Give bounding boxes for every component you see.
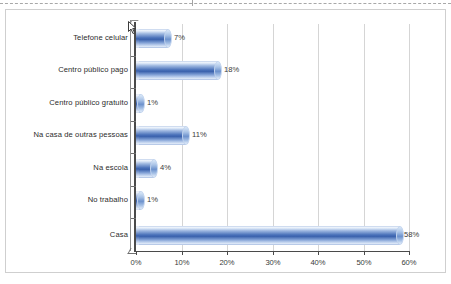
value-label-10: 10% bbox=[162, 258, 202, 267]
value-tick-10 bbox=[182, 251, 183, 255]
category-label-centro-publico-gratuito: Centro público gratuito bbox=[8, 98, 128, 107]
category-label-casa: Casa bbox=[8, 230, 128, 239]
bar-na-escola bbox=[136, 159, 154, 178]
category-label-telefone-celular: Telefone celular bbox=[8, 33, 128, 42]
value-tick-20 bbox=[227, 251, 228, 255]
bar-cap-icon bbox=[150, 159, 158, 178]
value-tick-40 bbox=[318, 251, 319, 255]
bar-cap-icon bbox=[137, 94, 145, 113]
bar-centro-publico-pago bbox=[136, 61, 218, 80]
value-tick-60 bbox=[409, 251, 410, 255]
bar-cap-icon bbox=[396, 226, 404, 245]
value-tick-0 bbox=[136, 251, 137, 255]
category-tick-4 bbox=[131, 153, 136, 154]
value-label-20: 20% bbox=[207, 258, 247, 267]
bar-cap-icon bbox=[182, 126, 190, 145]
value-label-40: 40% bbox=[298, 258, 338, 267]
data-label-centro-publico-gratuito: 1% bbox=[147, 98, 158, 107]
bar-left-edge bbox=[136, 159, 139, 178]
value-label-0: 0% bbox=[116, 258, 156, 267]
bar-cap-icon bbox=[137, 191, 145, 210]
category-label-na-casa-de-outras-pessoas: Na casa de outras pessoas bbox=[8, 130, 128, 139]
data-label-na-escola: 4% bbox=[160, 163, 171, 172]
gridline-20 bbox=[227, 24, 228, 251]
scan-dashed-tick bbox=[192, 0, 193, 6]
category-label-centro-publico-pago: Centro público pago bbox=[8, 65, 128, 74]
bar-cap-icon bbox=[164, 29, 172, 48]
category-tick-5 bbox=[131, 186, 136, 187]
bar-casa bbox=[136, 226, 400, 245]
gridline-60 bbox=[409, 24, 410, 251]
plot-area bbox=[136, 24, 409, 251]
data-label-na-casa-de-outras-pessoas: 11% bbox=[192, 130, 207, 139]
bar-centro-publico-gratuito bbox=[136, 94, 141, 113]
category-axis-depth-line bbox=[130, 20, 131, 251]
category-tick-1 bbox=[131, 56, 136, 57]
data-label-no-trabalho: 1% bbox=[147, 195, 158, 204]
data-label-telefone-celular: 7% bbox=[174, 33, 185, 42]
bar-left-edge bbox=[136, 61, 139, 80]
value-label-60: 60% bbox=[389, 258, 429, 267]
category-tick-3 bbox=[131, 121, 136, 122]
value-tick-50 bbox=[364, 251, 365, 255]
value-label-30: 30% bbox=[253, 258, 293, 267]
gridline-50 bbox=[364, 24, 365, 251]
mouse-cursor-icon bbox=[128, 21, 137, 34]
value-label-50: 50% bbox=[344, 258, 384, 267]
bar-na-casa-de-outras-pessoas bbox=[136, 126, 186, 145]
gridline-30 bbox=[273, 24, 274, 251]
data-label-centro-publico-pago: 18% bbox=[224, 65, 239, 74]
category-tick-2 bbox=[131, 88, 136, 89]
gridline-40 bbox=[318, 24, 319, 251]
category-label-no-trabalho: No trabalho bbox=[8, 195, 128, 204]
value-tick-30 bbox=[273, 251, 274, 255]
category-label-na-escola: Na escola bbox=[8, 163, 128, 172]
bar-left-edge bbox=[136, 226, 139, 245]
category-tick-6 bbox=[131, 218, 136, 219]
category-axis-labels: Telefone celular Centro público pago Cen… bbox=[4, 0, 128, 284]
bar-left-edge bbox=[136, 126, 139, 145]
bar-telefone-celular bbox=[136, 29, 168, 48]
bar-no-trabalho bbox=[136, 191, 141, 210]
data-label-casa: 58% bbox=[404, 230, 419, 239]
bar-cap-icon bbox=[214, 61, 222, 80]
